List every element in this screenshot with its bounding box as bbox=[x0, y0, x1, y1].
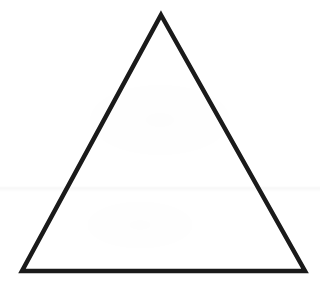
figure-canvas bbox=[0, 0, 320, 287]
triangle-figure bbox=[0, 0, 320, 287]
